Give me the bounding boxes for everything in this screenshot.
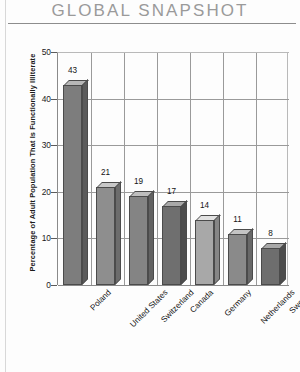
bar-front-face <box>96 187 116 285</box>
bar-value-label: 43 <box>63 66 83 75</box>
bar-value-label: 8 <box>261 229 281 238</box>
bar: 43 <box>63 85 83 285</box>
bar: 21 <box>96 187 116 285</box>
bar-side-face <box>247 228 253 285</box>
bar-front-face <box>63 85 83 285</box>
bar-front-face <box>228 234 248 285</box>
y-tick-label: 50 <box>42 47 51 57</box>
y-axis-tick-labels: 01020304050 <box>36 52 51 285</box>
page-left-rule <box>5 0 6 372</box>
y-tick-label: 40 <box>42 94 51 104</box>
bar-side-face <box>82 79 88 285</box>
page-title: GLOBAL SNAPSHOT <box>0 1 300 21</box>
bar-front-face <box>261 248 281 285</box>
x-tick-label: Poland <box>88 288 112 312</box>
bar-side-face <box>115 181 121 285</box>
chart-page: GLOBAL SNAPSHOT Percentage of Adult Popu… <box>0 0 300 372</box>
bar: 8 <box>261 248 281 285</box>
bar-series: 4321191714118 <box>58 53 289 286</box>
y-tick-label: 10 <box>42 233 51 243</box>
x-tick-label: Germany <box>223 288 253 318</box>
bar-side-face <box>181 200 187 285</box>
bar-side-face <box>280 242 286 285</box>
x-axis-tick-labels: PolandUnited StatesSwitzerlandCanadaGerm… <box>57 288 288 368</box>
bar: 14 <box>195 220 215 285</box>
bar-value-label: 21 <box>96 168 116 177</box>
bar: 19 <box>129 196 149 285</box>
y-tick-label: 20 <box>42 187 51 197</box>
plot-area: 4321191714118 <box>57 52 288 285</box>
bar-value-label: 11 <box>228 215 248 224</box>
bar-front-face <box>195 220 215 285</box>
bar-value-label: 14 <box>195 201 215 210</box>
bar-side-face <box>148 190 154 285</box>
bar-front-face <box>129 196 149 285</box>
title-divider <box>8 23 296 24</box>
bar: 17 <box>162 206 182 285</box>
bar: 11 <box>228 234 248 285</box>
y-tick-label: 30 <box>42 140 51 150</box>
bar-value-label: 19 <box>129 177 149 186</box>
y-tick-mark <box>51 285 57 286</box>
x-tick-label: United States <box>128 288 169 329</box>
bar-value-label: 17 <box>162 187 182 196</box>
bar-front-face <box>162 206 182 285</box>
bar-side-face <box>214 214 220 285</box>
chart-header: GLOBAL SNAPSHOT <box>0 0 300 24</box>
